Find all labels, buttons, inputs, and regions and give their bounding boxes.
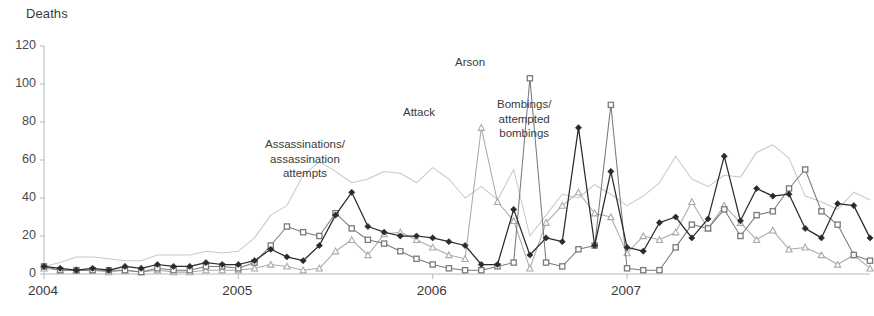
annotation-line: Attack xyxy=(403,105,435,120)
y-tick-40: 40 xyxy=(2,190,36,204)
y-tick-60: 60 xyxy=(2,152,36,166)
y-tick-100: 100 xyxy=(2,76,36,90)
y-tick-0: 0 xyxy=(2,266,36,280)
x-tick-2007: 2007 xyxy=(611,283,641,298)
annotation-3: Arson xyxy=(455,55,485,70)
plot-area xyxy=(0,0,874,316)
series-2 xyxy=(41,125,873,275)
annotation-2: Attack xyxy=(403,105,435,120)
annotation-line: assassination xyxy=(265,152,345,167)
annotation-line: Arson xyxy=(455,55,485,70)
y-tick-20: 20 xyxy=(2,228,36,242)
y-tick-80: 80 xyxy=(2,114,36,128)
annotation-line: attempted xyxy=(497,112,551,127)
x-tick-2006: 2006 xyxy=(417,283,447,298)
y-tick-120: 120 xyxy=(2,38,36,52)
annotation-line: attempts xyxy=(265,166,345,181)
x-tick-2004: 2004 xyxy=(28,283,58,298)
annotation-line: Bombings/ xyxy=(497,97,551,112)
annotation-line: Assassinations/ xyxy=(265,137,345,152)
series-3 xyxy=(44,145,870,267)
deaths-line-chart: Deaths 020406080100120 2004200520062007 … xyxy=(0,0,874,316)
annotation-line: bombings xyxy=(497,126,551,141)
x-tick-2005: 2005 xyxy=(222,283,252,298)
series-1 xyxy=(41,76,872,275)
series-0 xyxy=(41,125,873,274)
annotation-1: Assassinations/assassinationattempts xyxy=(265,137,345,181)
annotation-4: Bombings/attemptedbombings xyxy=(497,97,551,141)
